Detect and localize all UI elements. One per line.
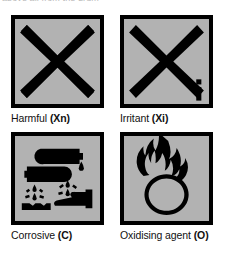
symbol-name: Oxidising agent bbox=[120, 229, 191, 241]
symbol-code: (O) bbox=[194, 229, 209, 241]
symbol-caption: Harmful (Xn) bbox=[11, 112, 108, 125]
saint-andrews-cross-icon bbox=[15, 19, 100, 104]
symbol-name: Corrosive bbox=[11, 229, 55, 241]
hazard-symbol-cell: Harmful (Xn) bbox=[11, 15, 108, 125]
symbol-caption: Corrosive (C) bbox=[11, 229, 108, 242]
symbol-caption: Oxidising agent (O) bbox=[120, 229, 217, 242]
irritant-symbol-box bbox=[120, 15, 213, 108]
symbol-name: Irritant bbox=[120, 112, 149, 124]
symbol-name: Harmful bbox=[11, 112, 47, 124]
symbol-caption: Irritant (Xi) bbox=[120, 112, 217, 125]
oxidising-agent-icon bbox=[124, 136, 209, 221]
hazard-symbol-grid: Harmful (Xn) Irritant (Xi) bbox=[11, 15, 217, 242]
corrosive-symbol-box bbox=[11, 132, 104, 225]
hazard-symbol-cell: Corrosive (C) bbox=[11, 132, 108, 242]
hazard-symbol-cell: Irritant (Xi) bbox=[120, 15, 217, 125]
symbol-code: (Xn) bbox=[50, 112, 70, 124]
corrosive-icon bbox=[15, 136, 100, 221]
symbol-code: (C) bbox=[58, 229, 72, 241]
harmful-symbol-box bbox=[11, 15, 104, 108]
saint-andrews-cross-with-i-icon bbox=[124, 19, 209, 104]
hazard-symbol-cell: Oxidising agent (O) bbox=[120, 132, 217, 242]
oxidising-agent-symbol-box bbox=[120, 132, 213, 225]
cut-off-header-text: above all from the drum bbox=[2, 0, 225, 2]
symbol-code: (Xi) bbox=[152, 112, 169, 124]
